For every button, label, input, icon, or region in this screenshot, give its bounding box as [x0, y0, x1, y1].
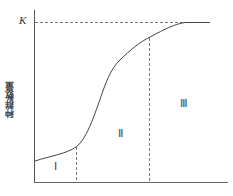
- k-label: K: [19, 14, 26, 26]
- region-label-3: Ⅲ: [180, 97, 188, 110]
- y-axis-label: 种群数量: [4, 82, 16, 118]
- growth-curve: [35, 23, 210, 162]
- diagram-canvas: [0, 0, 233, 196]
- region-label-1: Ⅰ: [54, 160, 57, 173]
- region-label-2: Ⅱ: [118, 127, 123, 140]
- logistic-growth-diagram: K 种群数量 Ⅰ Ⅱ Ⅲ: [0, 0, 233, 196]
